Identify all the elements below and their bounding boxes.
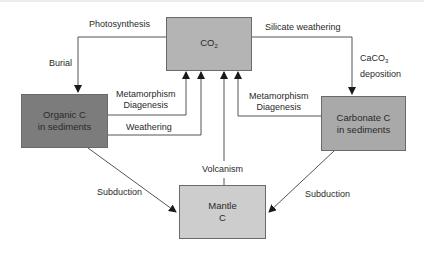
carbonate-carbon-line2: in sediments (337, 124, 390, 136)
organic-carbon-line1: Organic C (43, 109, 86, 121)
organic-carbon-line2: in sediments (38, 121, 91, 133)
mantle-line1: Mantle (208, 200, 237, 212)
subduction-right-arrow (269, 151, 334, 212)
photosynthesis-label: Photosynthesis (89, 19, 150, 30)
weathering-label: Weathering (126, 122, 172, 133)
carbonate-carbon-line1: Carbonate C (337, 112, 391, 124)
volcanism-label: Volcanism (202, 164, 243, 175)
silicate-weathering-arrow (252, 37, 352, 94)
co2-node: CO2 (166, 17, 252, 71)
diagenesis-left-text: Diagenesis (123, 100, 168, 110)
mantle-line2: C (219, 212, 226, 224)
metamorphism-left-text: Metamorphism (116, 89, 176, 99)
co2-label: CO2 (200, 37, 218, 52)
subduction-left-arrow (88, 148, 176, 212)
carbonate-metamorphism-label: Metamorphism Diagenesis (249, 91, 309, 113)
photosynthesis-burial-arrow (78, 37, 166, 92)
caco3-deposition-label: CaCO3 deposition (360, 52, 401, 81)
mantle-carbon-node: Mantle C (179, 185, 266, 239)
silicate-weathering-label: Silicate weathering (265, 22, 341, 33)
subduction-right-label: Subduction (305, 189, 350, 200)
caco3-label: CaCO3 (360, 53, 388, 63)
organic-metamorphism-label: Metamorphism Diagenesis (116, 89, 176, 111)
carbonate-carbon-node: Carbonate C in sediments (321, 96, 406, 151)
deposition-label: deposition (360, 69, 401, 79)
organic-carbon-node: Organic C in sediments (21, 94, 108, 148)
burial-label: Burial (49, 58, 72, 69)
diagenesis-right-text: Diagenesis (256, 102, 301, 112)
subduction-left-label: Subduction (97, 187, 142, 198)
metamorphism-right-text: Metamorphism (249, 91, 309, 101)
